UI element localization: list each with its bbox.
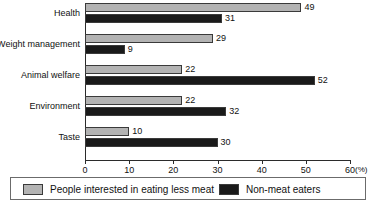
bar-chart: HealthWeight managementAnimal welfareEnv… [0,0,376,205]
category-label-animal-welfare: Animal welfare [0,70,80,80]
x-tick [173,160,174,164]
bar-group: 299 [85,34,350,57]
bar-value-label: 49 [304,3,314,12]
bar-value-label: 32 [229,107,239,116]
category-label-health: Health [0,8,80,18]
legend-swatch-gray [23,184,43,195]
bar-non-meat-eaters [85,45,125,54]
chart-legend: People interested in eating less meat No… [10,177,366,200]
legend-label-non-meat-eaters: Non-meat eaters [246,184,320,195]
x-tick [129,160,130,164]
bar-value-label: 10 [132,127,142,136]
bar-value-label: 52 [318,76,328,85]
bar-value-label: 22 [185,65,195,74]
category-label-environment: Environment [0,101,80,111]
x-tick [306,160,307,164]
x-tick [350,160,351,164]
bar-people-interested [85,65,182,74]
x-tick [262,160,263,164]
x-tick-label: 0 [82,165,87,175]
bar-group: 4931 [85,3,350,26]
bar-value-label: 30 [221,138,231,147]
bar-value-label: 22 [185,96,195,105]
category-label-weight-management: Weight management [0,39,80,49]
x-tick-label: 20 [168,165,178,175]
x-tick-label: 10 [124,165,134,175]
bar-group: 2232 [85,96,350,119]
bar-value-label: 9 [128,45,133,54]
legend-item-people-interested: People interested in eating less meat [23,182,214,196]
x-tick-label: 60 [345,165,355,175]
x-tick [218,160,219,164]
bar-people-interested [85,3,301,12]
bar-non-meat-eaters [85,76,315,85]
x-axis-unit-label: (%) [355,165,367,175]
category-label-taste: Taste [0,132,80,142]
bar-group: 2252 [85,65,350,88]
plot-area: 4931299225222321030 [85,3,350,158]
bar-people-interested [85,34,213,43]
bar-group: 1030 [85,127,350,150]
bar-value-label: 31 [225,14,235,23]
legend-swatch-dark [219,184,239,195]
x-tick-label: 30 [212,165,222,175]
legend-label-people-interested: People interested in eating less meat [50,184,214,195]
x-tick-label: 50 [301,165,311,175]
x-tick-label: 40 [257,165,267,175]
legend-item-non-meat-eaters: Non-meat eaters [219,182,320,196]
bar-value-label: 29 [216,34,226,43]
bar-people-interested [85,96,182,105]
bar-non-meat-eaters [85,138,218,147]
bar-non-meat-eaters [85,14,222,23]
bar-non-meat-eaters [85,107,226,116]
x-tick [85,160,86,164]
bar-people-interested [85,127,129,136]
